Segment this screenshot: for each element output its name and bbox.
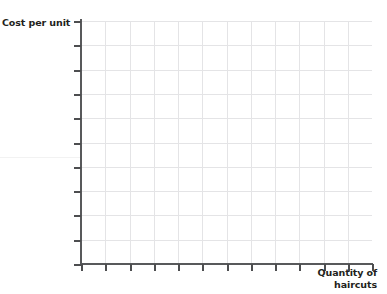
- y-axis-title: Cost per unit: [2, 17, 70, 29]
- y-axis-tick: [74, 94, 81, 96]
- blank-cost-quantity-graph: Cost per unit Quantity of haircuts: [0, 0, 387, 294]
- x-axis-tick: [178, 264, 180, 271]
- y-axis-tick: [74, 45, 81, 47]
- x-axis-tick: [130, 264, 132, 271]
- scan-artifact-line: [0, 157, 80, 158]
- y-axis-tick: [74, 21, 81, 23]
- plot-area: [81, 21, 372, 264]
- y-axis-tick: [74, 167, 81, 169]
- y-axis-tick: [74, 70, 81, 72]
- y-axis-line: [80, 19, 82, 265]
- x-axis-tick: [227, 264, 229, 271]
- x-axis-tick: [251, 264, 253, 271]
- y-axis-tick: [74, 264, 81, 266]
- x-axis-title-line-2: haircuts: [257, 279, 377, 291]
- x-axis-tick: [202, 264, 204, 271]
- y-axis-tick: [74, 215, 81, 217]
- grid-lines: [81, 21, 372, 264]
- x-axis-title-line-1: Quantity of: [257, 267, 377, 279]
- y-axis-tick: [74, 118, 81, 120]
- y-axis-tick: [74, 240, 81, 242]
- y-axis-tick: [74, 191, 81, 193]
- x-axis-tick: [81, 264, 83, 271]
- x-axis-title: Quantity of haircuts: [257, 267, 377, 290]
- x-axis-tick: [105, 264, 107, 271]
- x-axis-tick: [154, 264, 156, 271]
- y-axis-tick: [74, 143, 81, 145]
